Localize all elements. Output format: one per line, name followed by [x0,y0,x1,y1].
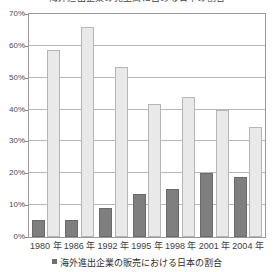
bars-layer [29,14,265,237]
bar-group [164,14,198,237]
y-axis-tick-label: 40% [0,106,25,114]
bar-group [231,14,265,237]
bar-group [198,14,232,237]
chart-legend: 海外進出企業の販売における日本の割合 [0,256,274,269]
bar-series-light [249,127,262,237]
y-axis-tick-label: 60% [0,42,25,50]
x-axis-tick-label: 1995 年 [130,240,164,252]
x-axis: 1980 年1986 年1992 年1995 年1998 年2001 年2004… [28,240,266,254]
bar-group [63,14,97,237]
legend-label: 海外進出企業の販売における日本の割合 [60,258,222,268]
bar-series-dark [32,220,45,237]
bar-series-dark [234,177,247,237]
bar-group [29,14,63,237]
bar-group [130,14,164,237]
y-axis-tick-label: 10% [0,201,25,209]
bar-series-dark [166,189,179,237]
chart-title: 海外進出企業の売上高に占める日本の割合 [0,0,274,4]
y-axis-tick-label: 70% [0,10,25,18]
bar-series-dark [200,173,213,237]
x-axis-tick-label: 2001 年 [198,240,232,252]
y-axis-tick-label: 0% [0,233,25,241]
x-axis-tick-label: 1986 年 [63,240,97,252]
x-axis-tick-label: 1980 年 [29,240,63,252]
y-axis-tick-label: 30% [0,137,25,145]
legend-swatch-icon [52,259,57,264]
bar-chart: 海外進出企業の売上高に占める日本の割合 0%10%20%30%40%50%60%… [0,0,274,272]
y-axis-tick-label: 20% [0,169,25,177]
bar-series-light [81,27,94,237]
bar-series-light [47,50,60,237]
bar-group [96,14,130,237]
x-axis-tick-label: 1992 年 [96,240,130,252]
bar-series-light [216,110,229,237]
bar-series-light [182,97,195,237]
x-axis-tick-label: 1998 年 [164,240,198,252]
bar-series-light [148,104,161,237]
bar-series-dark [65,220,78,237]
x-axis-tick-label: 2004 年 [231,240,265,252]
bar-series-dark [133,194,146,237]
bar-series-dark [99,208,112,237]
bar-series-light [115,67,128,237]
y-axis-tick-label: 50% [0,74,25,82]
